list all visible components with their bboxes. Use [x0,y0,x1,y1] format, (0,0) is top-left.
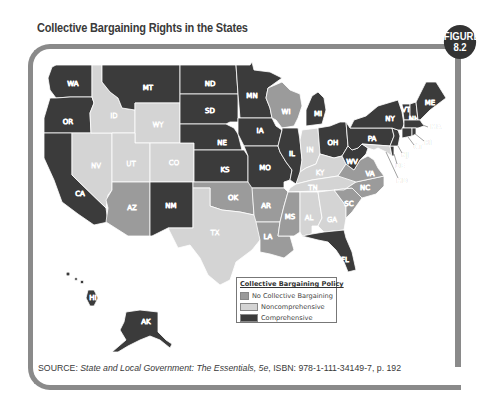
svg-text:SC: SC [344,200,353,208]
svg-text:OH: OH [328,139,339,147]
state-ia[interactable]: IA [238,118,282,146]
svg-text:NV: NV [91,162,101,170]
svg-text:VA: VA [365,170,374,178]
source-suffix: , ISBN: 978-1-111-34149-7, p. 192 [268,362,401,373]
svg-text:IA: IA [257,127,264,135]
svg-text:MS: MS [285,213,296,221]
svg-text:CO: CO [169,159,180,167]
legend-label: No Collective Bargaining [252,292,333,300]
svg-text:WA: WA [67,80,79,88]
svg-text:IL: IL [289,150,295,158]
svg-text:MI: MI [314,110,322,118]
legend-item-noncomprehensive: Noncomprehensive [240,301,333,312]
svg-text:ND: ND [205,80,216,88]
legend-label: Comprehensive [261,314,313,322]
state-az[interactable]: AZ [106,182,150,236]
state-ny[interactable]: NY [350,100,404,130]
svg-text:NE: NE [217,139,227,147]
us-map: WA OR CA NV ID MT WY UT CO AZ NM ND SD N… [0,0,500,406]
state-fl[interactable]: FL [302,230,356,272]
svg-text:UT: UT [126,160,136,168]
svg-text:MA: MA [431,123,442,131]
state-wy[interactable]: WY [135,103,180,143]
svg-text:NJ: NJ [401,151,408,159]
legend-label: Noncomprehensive [261,303,325,311]
svg-text:LA: LA [264,233,273,241]
svg-text:OK: OK [228,194,239,202]
state-or[interactable]: OR [44,97,94,133]
state-hi-islands [66,272,84,284]
svg-text:NC: NC [360,184,370,192]
svg-text:IN: IN [306,146,313,154]
source-citation: SOURCE: State and Local Government: The … [38,362,401,373]
state-sd[interactable]: SD [180,94,238,124]
state-nd[interactable]: ND [180,65,238,94]
source-prefix: SOURCE: [38,362,80,373]
svg-text:OR: OR [63,118,74,126]
state-ak[interactable]: AK [112,310,172,352]
svg-text:CT: CT [413,143,423,151]
svg-text:ME: ME [425,99,435,107]
svg-text:PA: PA [368,135,377,143]
svg-text:ID: ID [110,112,117,120]
svg-text:KY: KY [316,169,325,177]
svg-text:NY: NY [385,115,395,123]
legend-item-none: No Collective Bargaining [240,290,333,301]
state-co[interactable]: CO [150,143,194,182]
source-book-title: State and Local Government: The Essentia… [80,362,268,373]
svg-text:SD: SD [205,107,215,115]
svg-text:AZ: AZ [127,204,137,212]
state-wa[interactable]: WA [48,65,92,98]
svg-text:RI: RI [425,139,432,147]
svg-text:MT: MT [143,84,154,92]
map-legend: Collective Bargaining Policy No Collecti… [236,277,337,323]
svg-text:CA: CA [75,190,85,198]
svg-text:MO: MO [259,164,271,172]
svg-text:WY: WY [152,121,164,129]
svg-text:AK: AK [141,318,151,326]
svg-text:NM: NM [165,202,176,210]
svg-text:WV: WV [346,158,358,166]
svg-text:MN: MN [246,92,257,100]
legend-swatch-comprehensive [240,314,258,322]
svg-text:HI: HI [89,294,96,302]
legend-swatch-none [240,292,249,300]
state-ks[interactable]: KS [194,150,248,182]
svg-text:MD: MD [396,177,407,185]
svg-text:GA: GA [327,216,337,224]
svg-text:WI: WI [282,108,291,116]
state-mi[interactable]: MI [306,92,326,126]
legend-item-comprehensive: Comprehensive [240,312,333,323]
svg-text:TX: TX [209,229,219,237]
svg-text:TN: TN [307,184,318,192]
svg-text:AR: AR [261,202,271,210]
svg-text:FL: FL [341,256,349,264]
state-oh[interactable]: OH [318,122,348,158]
state-me[interactable]: ME [416,82,446,120]
state-hi[interactable]: HI [86,290,98,306]
svg-text:KS: KS [220,166,230,174]
svg-text:AL: AL [305,214,314,222]
legend-swatch-noncomprehensive [240,303,258,311]
legend-title: Collective Bargaining Policy [240,280,333,288]
